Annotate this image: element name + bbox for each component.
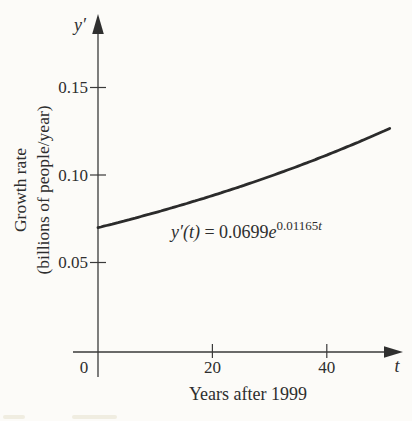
y-axis-symbol: y′: [72, 15, 87, 35]
y-axis-title: Growth rate (billions of people/year): [9, 30, 57, 350]
scan-artifact-right: [72, 415, 117, 419]
y-axis-title-line1: Growth rate: [9, 30, 32, 350]
x-tick-label-20: 20: [204, 358, 221, 377]
y-tick-label-005: 0.05: [58, 253, 88, 272]
y-axis-title-line2: (billions of people/year): [32, 30, 55, 350]
scan-artifact-left: [3, 415, 25, 419]
equation-exponent: 0.01165t: [277, 218, 322, 233]
equation-equals: =: [200, 222, 219, 242]
equation-exponent-var: t: [318, 218, 322, 233]
equation-exponent-coeff: 0.01165: [277, 218, 319, 233]
plot-canvas: y′ t 0.15 0.10 0.05 0 20 40: [0, 0, 412, 421]
y-axis-arrow-icon: [92, 14, 104, 34]
equation-coefficient: 0.0699: [219, 222, 269, 242]
equation-base-e: e: [269, 222, 277, 242]
equation-lhs: y′(t): [171, 222, 200, 242]
x-tick-label-40: 40: [318, 358, 335, 377]
y-tick-label-010: 0.10: [58, 166, 88, 185]
x-axis-symbol: t: [394, 356, 400, 376]
curve-equation: y′(t) = 0.0699e0.01165t: [171, 222, 322, 243]
growth-curve: [98, 128, 390, 227]
y-tick-label-015: 0.15: [58, 78, 88, 97]
growth-rate-figure: y′ t 0.15 0.10 0.05 0 20 40 Growth rate …: [0, 0, 412, 421]
x-axis-title: Years after 1999: [148, 384, 348, 405]
x-origin-label: 0: [80, 358, 89, 377]
